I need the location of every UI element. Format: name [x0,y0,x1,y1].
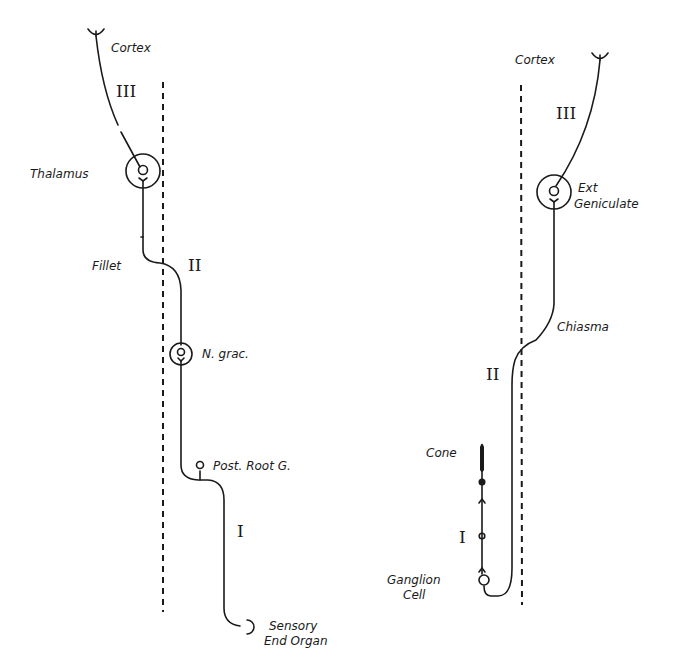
left-neuron-i-axon [181,361,240,626]
fillet-label: Fillet [92,259,122,273]
thalamus-label: Thalamus [30,167,89,181]
chiasma-label: Chiasma [557,320,609,334]
ganglion-label-line1: Ganglion [387,573,441,587]
right-pathway: Cortex III Ext Geniculate Chiasma II Gan… [387,53,639,605]
right-neuron-ii-label: II [486,364,499,384]
right-cortex-label: Cortex [515,53,556,67]
cone-label: Cone [426,446,457,460]
sensory-end-organ-icon [247,620,254,634]
right-midline-dashed [521,85,522,605]
right-neuron-ii-axon [484,202,554,596]
sensory-label-line2: End Organ [264,634,328,648]
left-neuron-ii-label: II [188,255,201,275]
right-neuron-iii-label: III [556,103,576,123]
right-neuron-iii-axon [556,60,600,186]
ganglion-cell-icon [479,575,489,585]
n-grac-label: N. grac. [202,347,249,361]
cone-nucleus-icon [479,479,486,486]
right-neuron-i-label: I [459,527,466,547]
cone-photoreceptor-icon [480,444,484,473]
left-neuron-i-label: I [237,521,244,541]
neural-pathways-diagram: Cortex III Thalamus Fillet II N. grac. P… [0,0,687,672]
ext-geniculate-label-line2: Geniculate [574,197,639,211]
sensory-label-line1: Sensory [269,619,318,633]
ext-geniculate-label-line1: Ext [578,181,599,195]
left-neuron-iii-label: III [116,81,136,101]
ganglion-label-line2: Cell [403,588,426,602]
left-pathway: Cortex III Thalamus Fillet II N. grac. P… [30,29,328,648]
left-cortex-label: Cortex [111,41,152,55]
post-root-ganglion-icon [197,462,204,469]
post-root-g-label: Post. Root G. [213,459,291,473]
